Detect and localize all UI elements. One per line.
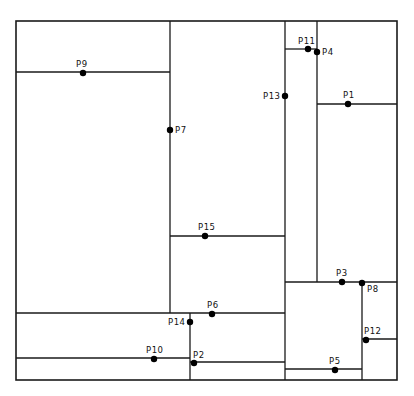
point-label: P1	[343, 90, 355, 100]
point-label: P11	[298, 36, 315, 46]
point-dot-icon	[80, 70, 86, 76]
point-p9: P9	[76, 59, 88, 76]
point-label: P5	[329, 356, 341, 366]
point-label: P15	[198, 222, 215, 232]
point-dot-icon	[345, 101, 351, 107]
point-label: P14	[168, 317, 185, 327]
point-label: P2	[193, 350, 205, 360]
point-dot-icon	[167, 127, 173, 133]
point-label: P8	[367, 284, 379, 294]
point-dot-icon	[209, 311, 215, 317]
point-dot-icon	[339, 279, 345, 285]
point-dot-icon	[187, 319, 193, 325]
point-label: P13	[263, 91, 280, 101]
point-p5: P5	[329, 356, 341, 373]
point-label: P10	[146, 345, 163, 355]
point-label: P9	[76, 59, 88, 69]
partition-lines	[16, 21, 397, 380]
point-p6: P6	[207, 300, 219, 317]
point-dot-icon	[305, 46, 311, 52]
point-p2: P2	[191, 350, 205, 366]
outer-frame	[16, 21, 397, 380]
point-dot-icon	[314, 49, 320, 55]
point-dot-icon	[191, 360, 197, 366]
point-p10: P10	[146, 345, 163, 362]
point-label: P12	[364, 326, 381, 336]
point-dot-icon	[332, 367, 338, 373]
point-label: P6	[207, 300, 219, 310]
point-dot-icon	[363, 337, 369, 343]
point-dot-icon	[151, 356, 157, 362]
partition-diagram: P1P2P3P4P5P6P7P8P9P10P11P12P13P14P15	[0, 0, 414, 396]
point-p12: P12	[363, 326, 382, 343]
point-label: P3	[336, 268, 348, 278]
point-label: P7	[175, 125, 187, 135]
point-dot-icon	[282, 93, 288, 99]
point-p11: P11	[298, 36, 315, 52]
point-dot-icon	[359, 280, 365, 286]
point-dot-icon	[202, 233, 208, 239]
point-label: P4	[322, 47, 334, 57]
point-markers: P1P2P3P4P5P6P7P8P9P10P11P12P13P14P15	[76, 36, 381, 373]
